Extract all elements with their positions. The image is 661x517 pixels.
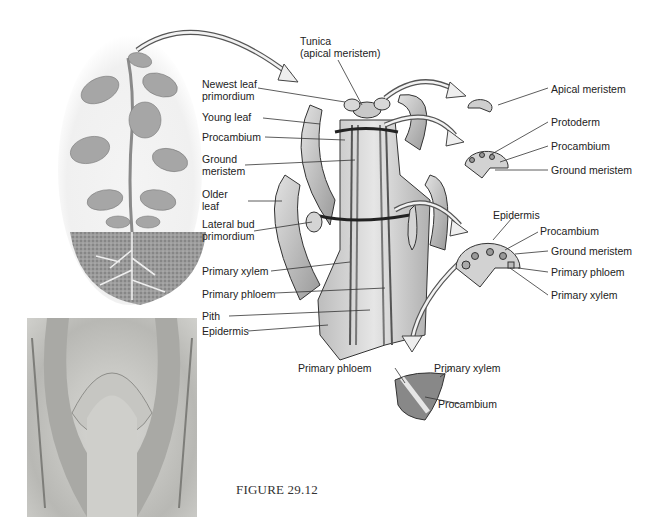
label-section3-procambium: Procambium: [540, 225, 599, 237]
label-section3-ground-meristem: Ground meristem: [551, 245, 632, 257]
label-ground-sub: meristem: [202, 165, 245, 177]
label-young-leaf: Young leaf: [202, 111, 251, 123]
figure-caption: FIGURE 29.12: [236, 482, 318, 498]
label-bundle-primary-xylem: Primary xylem: [434, 362, 501, 374]
label-protoderm: Protoderm: [551, 116, 600, 128]
label-lateral-bud-sub: primordium: [202, 230, 255, 242]
label-older-leaf: Older: [202, 188, 228, 200]
label-apical-meristem: Apical meristem: [551, 83, 626, 95]
label-pith: Pith: [202, 310, 220, 322]
label-procambium: Procambium: [202, 131, 261, 143]
label-section2-procambium: Procambium: [551, 140, 610, 152]
label-lateral-bud: Lateral bud: [202, 218, 255, 230]
label-newest-leaf-sub: primordium: [202, 90, 255, 102]
label-bundle-procambium: Procambium: [438, 398, 497, 410]
label-primary-phloem: Primary phloem: [202, 288, 276, 300]
label-tunica-sub: (apical meristem): [300, 47, 381, 59]
label-primary-xylem: Primary xylem: [202, 265, 269, 277]
label-newest-leaf: Newest leaf: [202, 78, 257, 90]
label-older-leaf-sub: leaf: [202, 200, 219, 212]
shoot-longitudinal-section: [274, 95, 447, 360]
arrow-to-section-apex: [385, 82, 466, 98]
label-bundle-primary-phloem: Primary phloem: [298, 362, 372, 374]
section-protoderm: [465, 151, 508, 178]
label-epidermis: Epidermis: [202, 325, 249, 337]
label-section2-ground-meristem: Ground meristem: [551, 164, 632, 176]
label-section3-epidermis: Epidermis: [493, 209, 540, 221]
label-ground: Ground: [202, 153, 237, 165]
label-section3-primary-phloem: Primary phloem: [551, 266, 625, 278]
shoot-tip-micrograph: [27, 318, 197, 517]
micrograph-illustration: [27, 318, 197, 517]
section-epidermis: [456, 243, 520, 287]
whole-plant-illustration: [58, 35, 206, 305]
label-section3-primary-xylem: Primary xylem: [551, 289, 618, 301]
label-tunica: Tunica: [300, 35, 331, 47]
section-apical-meristem: [468, 100, 492, 112]
